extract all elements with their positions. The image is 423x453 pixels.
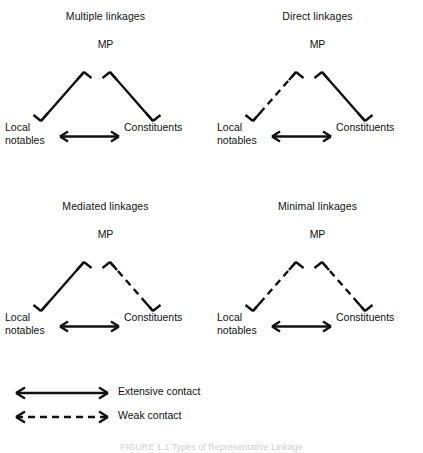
- node-local-notables-line1: Local: [217, 121, 242, 133]
- panel-direct-linkages: Direct linkages MP Localnotables Constit…: [212, 8, 423, 198]
- edge-local-constituents: [60, 132, 119, 142]
- panel-mediated-linkages: Mediated linkages MP Localnotables Const…: [0, 198, 211, 388]
- edge-local-mp: [246, 262, 304, 311]
- node-local-notables-line2: notables: [5, 324, 45, 336]
- node-constituents: Constituents: [336, 311, 394, 324]
- node-constituents: Constituents: [124, 311, 182, 324]
- legend: Extensive contact Weak contact: [0, 382, 423, 432]
- node-mp: MP: [0, 38, 211, 51]
- panel-diagram: [212, 198, 423, 388]
- panel-diagram: [212, 8, 423, 198]
- node-mp: MP: [0, 228, 211, 241]
- node-local-notables: Localnotables: [217, 311, 257, 336]
- edge-local-mp: [34, 72, 92, 121]
- node-local-notables-line2: notables: [217, 134, 257, 146]
- node-local-notables-line2: notables: [5, 134, 45, 146]
- edge-mp-constituents: [103, 72, 161, 121]
- figure-caption: FIGURE 1.1 Types of Representative Linka…: [0, 442, 423, 453]
- legend-label: Weak contact: [118, 409, 181, 421]
- panel-minimal-linkages: Minimal linkages MP Localnotables Consti…: [212, 198, 423, 388]
- legend-item-extensive-contact: Extensive contact: [0, 382, 423, 404]
- node-local-notables: Localnotables: [5, 311, 45, 336]
- legend-label: Extensive contact: [118, 385, 200, 397]
- node-mp: MP: [212, 228, 423, 241]
- legend-item-weak-contact: Weak contact: [0, 406, 423, 428]
- node-local-notables-line2: notables: [217, 324, 257, 336]
- legend-arrow-solid-icon: [10, 382, 114, 404]
- node-constituents: Constituents: [336, 121, 394, 134]
- edge-local-constituents: [60, 322, 119, 332]
- node-local-notables-line1: Local: [5, 121, 30, 133]
- edge-mp-constituents: [315, 262, 373, 311]
- edge-local-constituents: [272, 322, 331, 332]
- node-local-notables-line1: Local: [5, 311, 30, 323]
- figure-root: Multiple linkages MP Localnotables Const…: [0, 0, 423, 453]
- node-local-notables: Localnotables: [5, 121, 45, 146]
- node-local-notables: Localnotables: [217, 121, 257, 146]
- edge-local-constituents: [272, 132, 331, 142]
- node-mp: MP: [212, 38, 423, 51]
- edge-mp-constituents: [103, 262, 161, 311]
- panel-diagram: [0, 198, 211, 388]
- legend-arrow-dashed-icon: [10, 406, 114, 428]
- panel-diagram: [0, 8, 211, 198]
- panel-multiple-linkages: Multiple linkages MP Localnotables Const…: [0, 8, 211, 198]
- edge-local-mp: [34, 262, 92, 311]
- node-constituents: Constituents: [124, 121, 182, 134]
- edge-mp-constituents: [315, 72, 373, 121]
- node-local-notables-line1: Local: [217, 311, 242, 323]
- edge-local-mp: [246, 72, 304, 121]
